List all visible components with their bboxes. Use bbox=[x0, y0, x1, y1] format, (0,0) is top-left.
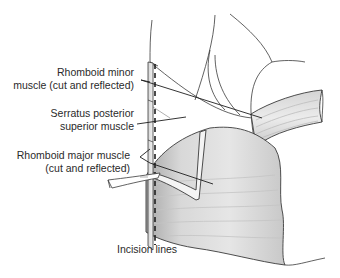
label-incision-lines: Incision lines bbox=[117, 243, 177, 256]
anatomy-figure: Rhomboid minor muscle (cut and reflected… bbox=[0, 0, 340, 278]
label-line: Rhomboid minor bbox=[13, 66, 134, 79]
label-line: Incision lines bbox=[117, 243, 177, 256]
label-rhomboid-minor: Rhomboid minor muscle (cut and reflected… bbox=[13, 66, 134, 92]
label-rhomboid-major: Rhomboid major muscle (cut and reflected… bbox=[17, 149, 130, 175]
label-line: (cut and reflected) bbox=[17, 162, 130, 175]
back-dissection-illustration bbox=[0, 0, 340, 278]
label-line: muscle (cut and reflected) bbox=[13, 79, 134, 92]
label-serratus-posterior: Serratus posterior superior muscle bbox=[51, 107, 134, 133]
cut-edge-strip bbox=[148, 62, 153, 250]
label-line: Serratus posterior bbox=[51, 107, 134, 120]
label-line: superior muscle bbox=[51, 120, 134, 133]
label-line: Rhomboid major muscle bbox=[17, 149, 130, 162]
